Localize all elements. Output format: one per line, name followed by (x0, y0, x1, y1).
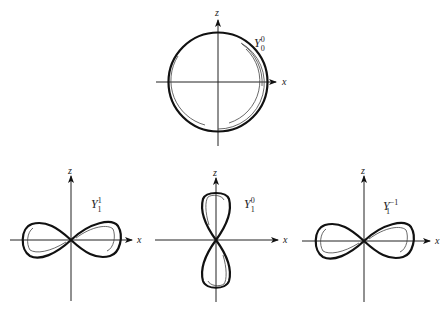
x-axis-label: x (281, 76, 287, 87)
y00-inner-arc-right (218, 43, 264, 129)
z-axis-label: z (212, 167, 217, 178)
x-axis-label: x (282, 234, 288, 245)
label-y1m1: Y−11 (383, 198, 398, 216)
panel-y00: z x Y00 (156, 7, 287, 146)
y00-inner-arc-left (171, 56, 205, 125)
panel-y1m1: z x Y−11 (302, 165, 440, 302)
x-axis-label: x (434, 235, 440, 246)
label-y10: Y01 (244, 196, 255, 214)
z-axis-label: z (67, 165, 72, 176)
spherical-harmonics-diagram: z x Y00 z x Y11 z x Y01 z x Y−11 (0, 0, 447, 309)
panel-y10: z x Y01 (155, 167, 288, 302)
panel-y11: z x Y11 (10, 165, 142, 301)
label-y11: Y11 (91, 196, 102, 214)
z-axis-label: z (214, 7, 219, 18)
x-axis-label: x (136, 234, 142, 245)
z-axis-label: z (360, 165, 365, 176)
